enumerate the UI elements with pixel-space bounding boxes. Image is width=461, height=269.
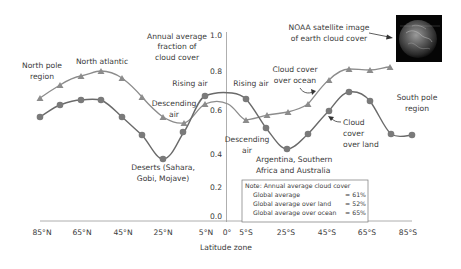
y-tick: 0.0	[210, 212, 222, 221]
svg-text:Africa and Australia: Africa and Australia	[256, 166, 330, 175]
x-tick: 85°N	[32, 228, 51, 237]
circle-marker	[139, 132, 146, 139]
y-tick: 0.4	[210, 150, 222, 159]
x-tick: 85°S	[399, 228, 417, 237]
circle-marker	[305, 131, 312, 138]
note-row-label: Global average over ocean	[253, 209, 337, 217]
x-tick: 45°S	[318, 228, 336, 237]
annotation-deserts: Deserts (Sahara, Gobi, Mojave)	[131, 163, 195, 183]
svg-text:Cloud: Cloud	[343, 118, 365, 127]
triangle-marker	[202, 101, 209, 107]
circle-marker	[263, 125, 270, 132]
note-box: Note: Annual average cloud cover Global …	[242, 180, 368, 222]
svg-text:Deserts (Sahara,: Deserts (Sahara,	[131, 163, 195, 172]
y-axis-title: Annual average fraction of cloud cover	[147, 32, 207, 62]
y-tick: 0.2	[210, 183, 222, 192]
y-tick: 0.8	[210, 67, 222, 76]
x-tick: 25°N	[153, 228, 172, 237]
svg-text:Cloud cover: Cloud cover	[272, 65, 318, 74]
arrow-ocean	[300, 88, 313, 93]
note-row-label: Global average	[253, 191, 300, 199]
annotation-noaa: NOAA satellite image of earth cloud cove…	[289, 23, 370, 43]
circle-marker	[243, 96, 250, 103]
annotation-north-atlantic: North atlantic	[76, 57, 128, 66]
x-tick: 65°N	[72, 228, 91, 237]
note-title: Note: Annual average cloud cover	[245, 182, 351, 190]
annotation-rising-air-north: Rising air	[172, 79, 208, 88]
x-tick: 5°N	[199, 228, 213, 237]
annotation-argentina: Argentina, Southern Africa and Australia	[256, 155, 333, 175]
svg-text:region: region	[405, 104, 429, 113]
svg-text:region: region	[30, 72, 54, 81]
circle-marker	[98, 97, 105, 104]
svg-text:cover: cover	[343, 129, 365, 138]
x-axis-title: Latitude zone	[200, 243, 252, 252]
circle-marker	[409, 132, 416, 139]
x-tick: 25°S	[277, 228, 295, 237]
circle-marker	[57, 102, 64, 109]
x-tick: 45°N	[113, 228, 132, 237]
svg-text:over ocean: over ocean	[274, 76, 316, 85]
annotation-south-pole: South pole region	[397, 93, 438, 113]
annotation-descending-air-north: Descending air	[152, 99, 197, 119]
cloud-cover-chart: 1.0 0.8 0.6 0.4 0.2 0.0 85°N 65°N 45°N 2…	[0, 0, 461, 269]
note-row-value: = 61%	[345, 191, 366, 198]
y-tick-labels: 1.0 0.8 0.6 0.4 0.2 0.0	[210, 31, 222, 221]
annotation-land: Cloud cover over land	[343, 118, 379, 149]
svg-text:Descending: Descending	[152, 99, 197, 108]
x-tick: 0°	[223, 228, 232, 237]
svg-text:Descending: Descending	[225, 135, 270, 144]
y-tick: 1.0	[210, 31, 222, 40]
svg-text:North pole: North pole	[22, 61, 62, 70]
svg-text:air: air	[169, 110, 180, 119]
annotation-rising-air-south: Rising air	[233, 79, 269, 88]
note-row-value: = 52%	[345, 200, 366, 207]
annotation-north-pole: North pole region	[22, 61, 62, 81]
circle-marker	[326, 108, 333, 115]
svg-text:NOAA satellite image: NOAA satellite image	[289, 23, 370, 32]
circle-marker	[119, 114, 126, 121]
circle-marker	[180, 129, 187, 136]
svg-text:fraction of: fraction of	[158, 42, 197, 51]
svg-text:Annual average: Annual average	[147, 32, 207, 41]
circle-marker	[37, 114, 44, 121]
svg-text:air: air	[242, 146, 253, 155]
y-tick: 0.6	[210, 106, 222, 115]
circle-marker	[160, 156, 167, 163]
arrowhead-icon	[386, 35, 393, 40]
note-row-value: = 65%	[345, 209, 366, 216]
x-tick-labels: 85°N 65°N 45°N 25°N 5°N 0° 5°S 25°S 45°S…	[32, 228, 417, 237]
svg-text:cloud cover: cloud cover	[155, 53, 200, 62]
annotation-ocean: Cloud cover over ocean	[272, 65, 318, 85]
circle-marker	[202, 93, 209, 100]
circle-marker	[367, 98, 374, 105]
annotation-descending-air-south: Descending air	[225, 135, 270, 155]
svg-text:over land: over land	[343, 140, 379, 149]
arrow-noaa	[369, 33, 389, 37]
x-tick: 65°S	[358, 228, 376, 237]
svg-text:of earth cloud cover: of earth cloud cover	[291, 34, 368, 43]
note-row-label: Global average over land	[253, 200, 331, 208]
svg-text:Gobi, Mojave): Gobi, Mojave)	[137, 174, 189, 183]
circle-marker	[284, 146, 291, 153]
circle-marker	[346, 89, 353, 96]
circle-marker	[78, 97, 85, 104]
satellite-earth-image	[396, 15, 442, 62]
svg-text:South pole: South pole	[397, 93, 438, 102]
x-tick: 5°S	[239, 228, 253, 237]
circle-marker	[388, 131, 395, 138]
svg-text:Argentina, Southern: Argentina, Southern	[256, 155, 333, 164]
arrowhead-icon	[328, 116, 334, 121]
